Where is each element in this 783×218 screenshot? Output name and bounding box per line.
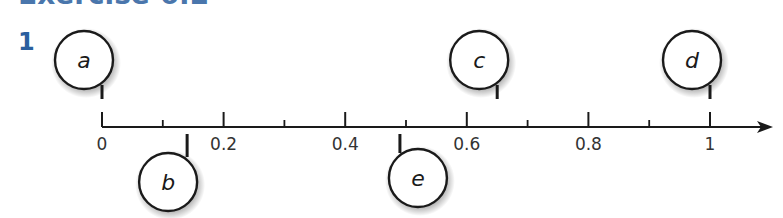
marker-label: b — [161, 170, 175, 195]
marker-d: d — [659, 28, 729, 99]
number-line: 00.20.40.60.81 abcde — [0, 0, 783, 218]
marker-b: b — [135, 134, 205, 218]
marker-label: a — [77, 48, 90, 73]
tick-label: 1 — [705, 134, 716, 154]
marker-a: a — [51, 28, 121, 99]
axis — [102, 121, 773, 133]
marker-c: c — [446, 28, 516, 99]
markers: abcde — [51, 28, 729, 218]
ticks — [102, 112, 710, 127]
marker-label: d — [685, 48, 700, 73]
marker-label: c — [473, 48, 485, 73]
tick-label: 0.4 — [332, 134, 359, 154]
marker-e: e — [385, 134, 455, 216]
marker-label: e — [411, 166, 425, 191]
tick-label: 0.6 — [453, 134, 480, 154]
tick-label: 0 — [97, 134, 108, 154]
tick-label: 0.2 — [210, 134, 237, 154]
tick-label: 0.8 — [575, 134, 602, 154]
